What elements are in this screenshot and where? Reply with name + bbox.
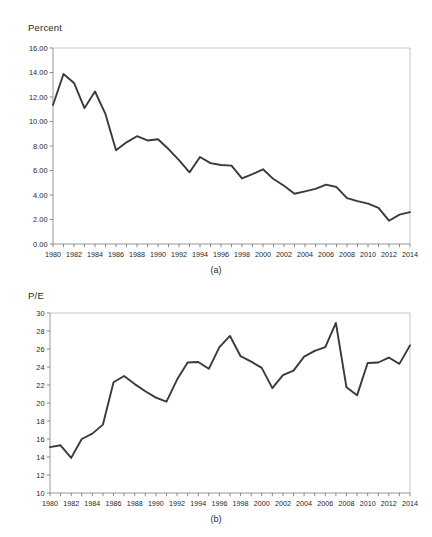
x-tick-label: 2002 [276,250,292,259]
x-tick-label: 2006 [318,250,334,259]
x-tick-label: 1990 [148,499,164,508]
x-tick-label: 2012 [381,499,397,508]
y-tick-label: 12.00 [29,93,48,102]
y-tick-label: 10 [36,489,44,498]
x-tick-label: 2014 [402,250,418,259]
y-tick-label: 26 [36,345,44,354]
chart-b-caption: (b) [0,514,432,524]
y-tick-label: 0.00 [33,240,47,249]
chart-b-plot-area: 1012141618202224262830198019821984198619… [0,282,432,537]
x-tick-label: 1998 [234,250,250,259]
x-tick-label: 2008 [338,499,354,508]
x-tick-label: 1988 [129,250,145,259]
y-tick-label: 22 [36,381,44,390]
x-tick-label: 2014 [402,499,418,508]
y-tick-label: 28 [36,327,44,336]
x-tick-label: 1994 [190,499,206,508]
x-tick-label: 1984 [84,499,100,508]
x-tick-label: 1986 [108,250,124,259]
y-tick-label: 24 [36,363,44,372]
x-tick-label: 1982 [66,250,82,259]
y-tick-label: 8.00 [33,142,47,151]
x-tick-label: 2004 [297,250,313,259]
chart-panel-a: Percent 0.002.004.006.008.0010.0012.0014… [0,0,432,282]
x-tick-label: 1992 [169,499,185,508]
data-series-line [53,74,410,221]
y-tick-label: 4.00 [33,191,47,200]
x-tick-label: 2010 [360,499,376,508]
x-tick-label: 2006 [317,499,333,508]
y-tick-label: 12 [36,471,44,480]
x-tick-label: 1984 [87,250,103,259]
x-tick-label: 2000 [254,499,270,508]
x-tick-label: 1992 [171,250,187,259]
chart-a-svg: 0.002.004.006.008.0010.0012.0014.0016.00… [0,0,432,262]
y-tick-label: 6.00 [33,166,47,175]
x-tick-label: 1994 [192,250,208,259]
x-tick-label: 1996 [211,499,227,508]
x-tick-label: 1982 [63,499,79,508]
x-tick-label: 1986 [106,499,122,508]
x-tick-label: 1980 [42,499,58,508]
x-tick-label: 2000 [255,250,271,259]
x-tick-label: 2012 [381,250,397,259]
x-tick-label: 1988 [127,499,143,508]
data-series-line [50,323,410,458]
x-tick-label: 1998 [233,499,249,508]
y-tick-label: 18 [36,417,44,426]
x-tick-label: 1980 [45,250,61,259]
x-tick-label: 2010 [360,250,376,259]
x-tick-label: 1990 [150,250,166,259]
y-tick-label: 14.00 [29,68,48,77]
y-tick-label: 14 [36,453,44,462]
y-tick-label: 30 [36,309,44,318]
chart-a-caption: (a) [0,265,432,275]
y-tick-label: 10.00 [29,117,48,126]
x-tick-label: 2004 [296,499,312,508]
y-tick-label: 16 [36,435,44,444]
chart-a-plot-area: 0.002.004.006.008.0010.0012.0014.0016.00… [0,0,432,282]
chart-panel-b: P/E 101214161820222426283019801982198419… [0,282,432,537]
x-tick-label: 2002 [275,499,291,508]
y-tick-label: 16.00 [29,44,48,53]
y-tick-label: 2.00 [33,215,47,224]
x-tick-label: 1996 [213,250,229,259]
chart-b-svg: 1012141618202224262830198019821984198619… [0,282,432,512]
y-tick-label: 20 [36,399,44,408]
x-tick-label: 2008 [339,250,355,259]
